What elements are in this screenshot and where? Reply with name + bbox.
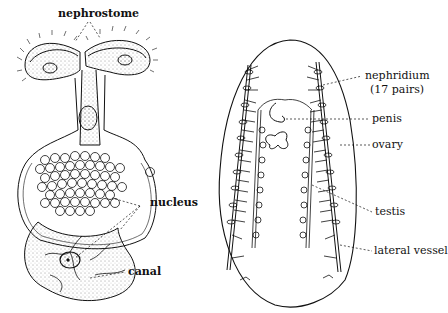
label-ovary: ovary [372,139,403,151]
label-nephridium: nephridium [365,70,430,82]
label-lateral-vessel: lateral vessel [374,245,448,257]
body-outline-drawing [219,40,372,307]
label-penis: penis [372,113,402,125]
label-testis: testis [375,206,405,218]
label-nephrostome: nephrostome [58,8,139,20]
label-nephridium-count: (17 pairs) [370,84,424,96]
vacuole-cluster [36,152,155,216]
testis-loops [253,127,311,238]
label-nucleus: nucleus [150,197,198,209]
lateral-vessels [227,62,341,272]
nephridia [227,66,340,258]
label-canal: canal [128,266,161,278]
nephridium-cell-drawing [17,22,158,301]
